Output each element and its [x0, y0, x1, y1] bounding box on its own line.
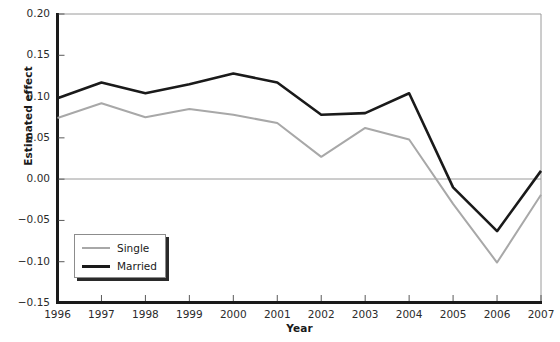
legend-item-single[interactable]: Single	[82, 239, 149, 257]
legend-swatch-single-icon	[82, 247, 110, 249]
x-axis-tick-label: 2002	[299, 308, 343, 320]
x-axis-tick-label: 1996	[36, 308, 80, 320]
x-axis-tick-label: 1997	[79, 308, 123, 320]
x-axis-tick-label: 1998	[123, 308, 167, 320]
y-axis	[58, 13, 65, 304]
x-axis-tick-label: 2004	[387, 308, 431, 320]
y-axis-tick-label: −0.10	[6, 255, 50, 267]
x-axis-tick-label: 2001	[255, 308, 299, 320]
chart-container: 0.200.150.100.050.00−0.05−0.10−0.15 1996…	[0, 0, 560, 342]
x-axis-tick-label: 2005	[431, 308, 475, 320]
x-axis-tick-label: 2000	[211, 308, 255, 320]
x-axis-tick-label: 2007	[519, 308, 560, 320]
legend-label-married: Married	[117, 261, 157, 272]
y-axis-tick-label: 0.20	[6, 7, 50, 19]
x-axis-tick-label: 1999	[167, 308, 211, 320]
chart-legend: Single Married	[74, 234, 166, 278]
plot-area	[0, 0, 560, 342]
x-axis-tick-label: 2006	[475, 308, 519, 320]
x-axis-title: Year	[57, 322, 542, 334]
x-axis-tick-label: 2003	[343, 308, 387, 320]
y-axis-tick-label: −0.05	[6, 213, 50, 225]
legend-item-married[interactable]: Married	[82, 257, 157, 275]
line-series-married	[58, 73, 542, 231]
y-axis-title: Estimated effect	[22, 36, 34, 196]
legend-swatch-married-icon	[82, 265, 110, 268]
y-axis-tick-label: −0.15	[6, 296, 50, 308]
x-axis	[56, 295, 542, 303]
legend-label-single: Single	[117, 243, 149, 254]
